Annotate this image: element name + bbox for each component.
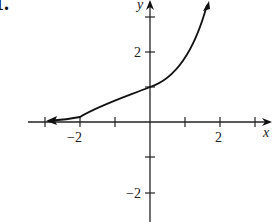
exponential-curve (48, 5, 207, 121)
curve-arrow-right-icon (203, 1, 210, 11)
graph: −2 2 x 2 −2 y (0, 0, 273, 222)
y-tick-label-neg2: −2 (126, 186, 141, 201)
y-axis-label: y (135, 0, 144, 12)
x-tick-label-neg2: −2 (67, 130, 82, 145)
x-axis-label: x (262, 125, 270, 140)
y-tick-label-2: 2 (134, 45, 141, 60)
x-tick-label-2: 2 (215, 130, 222, 145)
